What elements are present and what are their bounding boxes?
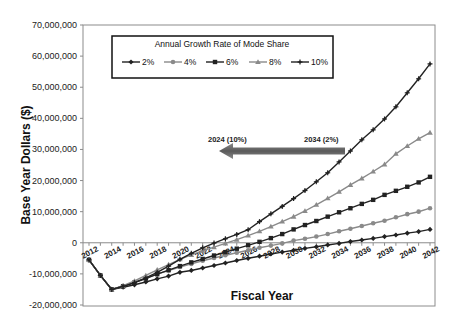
square-marker-icon: [291, 227, 295, 231]
y-axis: 70,000,00060,000,00050,000,00040,000,000…: [29, 20, 83, 310]
circle-marker-icon: [257, 245, 262, 250]
plus-marker-dot: [338, 161, 341, 164]
square-marker-icon: [371, 198, 375, 202]
plus-marker-dot: [292, 197, 295, 200]
circle-marker-icon: [291, 238, 296, 243]
circle-marker-icon: [416, 209, 421, 214]
plus-marker-dot: [417, 78, 420, 81]
circle-marker-icon: [382, 218, 387, 223]
square-marker-icon: [337, 210, 341, 214]
plus-marker-dot: [429, 63, 432, 66]
square-marker-icon: [416, 180, 420, 184]
square-marker-icon: [223, 250, 227, 254]
plus-marker-dot: [299, 61, 302, 64]
legend: Annual Growth Rate of Mode Share 2%4%6%8…: [112, 36, 333, 78]
plus-marker-dot: [270, 213, 273, 216]
y-axis-title: Base Year Dollars ($): [19, 105, 33, 224]
y-tick-label: 70,000,000: [32, 20, 77, 30]
y-tick-label: -10,000,000: [29, 269, 77, 279]
y-tick-label: 40,000,000: [32, 113, 77, 123]
square-marker-icon: [246, 243, 250, 247]
circle-marker-icon: [303, 236, 308, 241]
y-tick-label: 10,000,000: [32, 207, 77, 217]
plus-marker-dot: [315, 181, 318, 184]
legend-label: 6%: [226, 57, 239, 67]
annotation-label-2024: 2024 (10%): [208, 135, 247, 144]
square-marker-icon: [348, 206, 352, 210]
plus-marker-dot: [247, 228, 250, 231]
legend-title: Annual Growth Rate of Mode Share: [155, 39, 290, 49]
plus-marker-dot: [179, 258, 182, 261]
circle-marker-icon: [394, 215, 399, 220]
square-marker-icon: [269, 236, 273, 240]
chart: 70,000,00060,000,00050,000,00040,000,000…: [0, 0, 453, 327]
plus-marker-dot: [145, 277, 148, 280]
circle-marker-icon: [246, 248, 251, 253]
plus-marker-dot: [99, 274, 102, 277]
plus-marker-dot: [372, 129, 375, 132]
circle-marker-icon: [234, 250, 239, 255]
plus-marker-dot: [122, 285, 125, 288]
y-tick-label: 30,000,000: [32, 144, 77, 154]
circle-marker-icon: [360, 224, 365, 229]
plus-marker-dot: [167, 265, 170, 268]
plus-marker-dot: [326, 171, 329, 174]
circle-marker-icon: [371, 221, 376, 226]
y-tick-label: 50,000,000: [32, 82, 77, 92]
square-marker-icon: [213, 60, 217, 64]
plus-marker-dot: [281, 205, 284, 208]
square-marker-icon: [303, 223, 307, 227]
square-marker-icon: [326, 214, 330, 218]
plus-marker-dot: [361, 139, 364, 142]
plus-marker-dot: [349, 150, 352, 153]
square-marker-icon: [257, 240, 261, 244]
plus-marker-dot: [190, 252, 193, 255]
legend-label: 10%: [311, 57, 328, 67]
plus-marker-dot: [258, 220, 261, 223]
circle-marker-icon: [280, 241, 285, 246]
annotation-label-2034: 2034 (2%): [304, 135, 339, 144]
plus-marker-dot: [213, 242, 216, 245]
legend-label: 4%: [184, 57, 197, 67]
line-chart: 70,000,00060,000,00050,000,00040,000,000…: [0, 0, 453, 327]
square-marker-icon: [178, 264, 182, 268]
square-marker-icon: [189, 260, 193, 264]
circle-marker-icon: [405, 212, 410, 217]
y-tick-label: 20,000,000: [32, 176, 77, 186]
square-marker-icon: [428, 175, 432, 179]
y-tick-label: -20,000,000: [29, 300, 77, 310]
plus-marker-dot: [88, 259, 91, 262]
circle-marker-icon: [337, 229, 342, 234]
square-marker-icon: [166, 268, 170, 272]
square-marker-icon: [394, 189, 398, 193]
circle-marker-icon: [325, 232, 330, 237]
circle-marker-icon: [314, 234, 319, 239]
plus-marker-dot: [304, 189, 307, 192]
legend-label: 8%: [269, 57, 282, 67]
plus-marker-dot: [133, 281, 136, 284]
square-marker-icon: [200, 257, 204, 261]
circle-marker-icon: [348, 226, 353, 231]
circle-marker-icon: [171, 60, 176, 65]
square-marker-icon: [314, 219, 318, 223]
plus-marker-dot: [156, 271, 159, 274]
x-axis-title: Fiscal Year: [231, 289, 294, 303]
plus-marker-dot: [383, 118, 386, 121]
square-marker-icon: [382, 193, 386, 197]
plus-marker-dot: [406, 92, 409, 95]
plus-marker-dot: [395, 106, 398, 109]
circle-marker-icon: [428, 206, 433, 211]
square-marker-icon: [360, 202, 364, 206]
square-marker-icon: [280, 232, 284, 236]
plus-marker-dot: [224, 237, 227, 240]
plus-marker-dot: [235, 233, 238, 236]
plus-marker-dot: [201, 246, 204, 249]
square-marker-icon: [405, 185, 409, 189]
square-marker-icon: [212, 253, 216, 257]
legend-label: 2%: [142, 57, 155, 67]
square-marker-icon: [235, 246, 239, 250]
y-tick-label: 0: [72, 238, 77, 248]
circle-marker-icon: [269, 243, 274, 248]
plus-marker-dot: [110, 288, 113, 291]
y-tick-label: 60,000,000: [32, 51, 77, 61]
